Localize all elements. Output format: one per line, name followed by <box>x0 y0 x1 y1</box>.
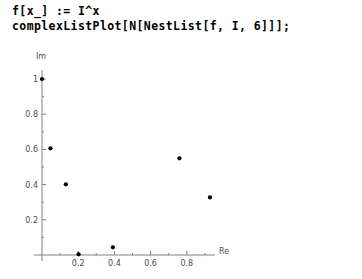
x-axis-tick-label: 0.2 <box>72 259 85 268</box>
y-axis-tick-label: 0.6 <box>8 145 38 154</box>
complex-list-plot: 0.20.40.60.80.20.40.60.81 Im Re <box>0 48 362 279</box>
code-line-definition: f[x_] := I^x <box>12 4 358 19</box>
y-axis-tick-label: 0.4 <box>8 180 38 189</box>
plot-axes <box>34 70 215 261</box>
data-point <box>111 245 115 249</box>
x-axis-tick-label: 0.6 <box>144 259 157 268</box>
data-point <box>76 252 80 256</box>
data-point <box>40 77 44 81</box>
data-point <box>64 182 68 186</box>
x-axis-tick-label: 0.8 <box>180 259 193 268</box>
code-line-plot-call: complexListPlot[N[NestList[f, I, 6]]]; <box>12 19 358 34</box>
plot-canvas <box>0 48 362 279</box>
axis-label-im: Im <box>36 52 46 61</box>
x-axis-tick-label: 0.4 <box>108 259 121 268</box>
data-point <box>48 146 52 150</box>
code-block: f[x_] := I^x complexListPlot[N[NestList[… <box>12 4 358 34</box>
y-axis-tick-label: 0.2 <box>8 215 38 224</box>
plot-data-points <box>40 77 212 257</box>
y-axis-tick-label: 1 <box>8 75 38 84</box>
data-point <box>208 195 212 199</box>
y-axis-tick-label: 0.8 <box>8 110 38 119</box>
axis-label-re: Re <box>219 247 229 256</box>
data-point <box>177 156 181 160</box>
